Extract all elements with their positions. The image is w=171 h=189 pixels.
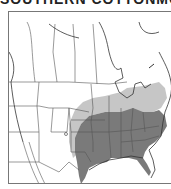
us-range-map-svg (9, 12, 171, 184)
map-title: SOUTHERN COTTONMOUTH (0, 0, 171, 7)
great-salt-lake (65, 133, 68, 136)
range-map (8, 11, 171, 184)
canada-feature (149, 64, 154, 68)
